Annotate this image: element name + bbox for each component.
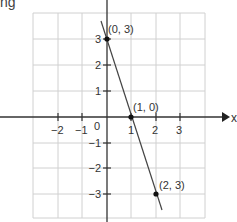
x-tick-label: 3	[176, 124, 182, 136]
point-label: (2, 3)	[159, 179, 185, 191]
point-0-3	[104, 36, 109, 41]
y-tick-label: 1	[95, 85, 101, 97]
x-axis-label: x	[231, 111, 237, 125]
y-tick-label: 2	[95, 59, 101, 71]
x-tick-label: −2	[51, 124, 64, 136]
x-axis-arrow-icon	[222, 112, 230, 122]
y-tick-label: 3	[95, 33, 101, 45]
point-1-0	[128, 114, 133, 119]
x-tick-label: −1	[75, 124, 88, 136]
point-label: (0, 3)	[108, 23, 134, 35]
origin-label: 0	[94, 120, 100, 132]
point-label: (1, 0)	[133, 101, 159, 113]
point-labels: (0, 3) (1, 0) (2, 3)	[108, 23, 185, 191]
x-tick-label: 2	[152, 124, 158, 136]
point-2-neg3	[153, 191, 158, 196]
y-tick-label: −2	[88, 162, 101, 174]
x-tick-labels: −2 −1 0 1 2 3	[51, 120, 182, 136]
y-tick-label: −1	[88, 137, 101, 149]
coordinate-plane: x −2 −1 0 1 2 3 3 2 1 −1 −2 −3	[0, 0, 237, 222]
x-tick-label: 1	[128, 124, 134, 136]
y-tick-label: −3	[88, 188, 101, 200]
